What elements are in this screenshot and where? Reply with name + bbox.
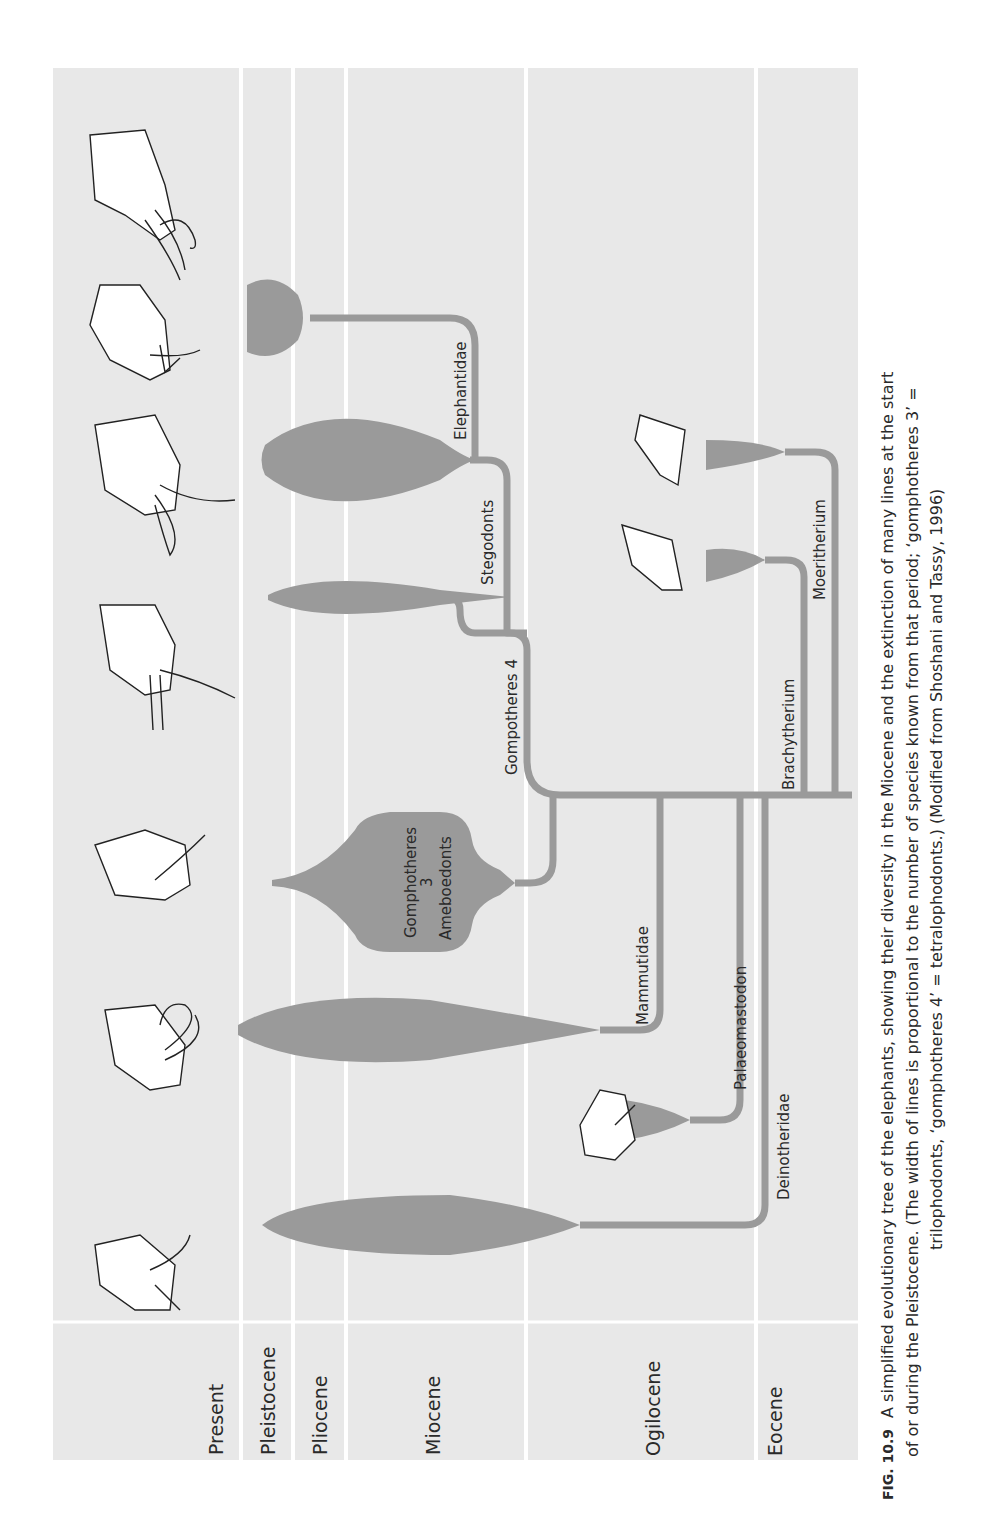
period-label-eocene: Eocene <box>764 1387 786 1457</box>
caption-text-1: A simplified evolutionary tree of the el… <box>878 372 897 1418</box>
elephant-evolution-figure: Present Pleistocene Pliocene Miocene Ogi… <box>0 0 996 1530</box>
band-oligocene <box>528 68 754 1460</box>
band-eocene <box>758 68 858 1460</box>
figure-caption: FIG. 10.9 A simplified evolutionary tree… <box>878 372 946 1500</box>
label-brachytherium: Brachytherium <box>780 679 798 790</box>
band-pleistocene <box>243 68 291 1460</box>
period-label-pleistocene: Pleistocene <box>257 1346 279 1455</box>
period-label-present: Present <box>205 1384 227 1455</box>
label-mammutidae: Mammutidae <box>634 926 652 1025</box>
caption-line-2: of or during the Pleistocene. (The width… <box>903 387 922 1457</box>
label-deinotheridae: Deinotheridae <box>775 1093 793 1200</box>
caption-line-3: trilophodonts, ‘gomphotheres 4’ = tetral… <box>927 489 946 1250</box>
band-pliocene <box>295 68 344 1460</box>
label-gomphotheres3-line3: Ameboedonts <box>437 836 455 940</box>
label-moeritherium: Moeritherium <box>811 499 829 600</box>
period-label-oligocene: Ogilocene <box>642 1361 664 1456</box>
label-palaeomastodon: Palaeomastodon <box>732 966 750 1090</box>
period-label-pliocene: Pliocene <box>309 1375 331 1455</box>
figure-number: FIG. 10.9 <box>880 1429 896 1500</box>
label-gompotheres4: Gompotheres 4 <box>503 659 521 775</box>
label-gomphotheres3-line2: 3 <box>418 877 436 887</box>
label-stegodonts: Stegodonts <box>479 500 497 585</box>
caption-line-1: FIG. 10.9 A simplified evolutionary tree… <box>878 372 897 1500</box>
spindle-elephantidae <box>247 279 303 356</box>
period-label-miocene: Miocene <box>422 1376 444 1455</box>
label-elephantidae: Elephantidae <box>452 341 470 440</box>
